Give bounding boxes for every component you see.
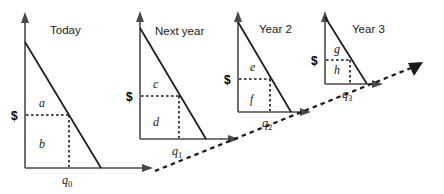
area-label-g: g [334, 42, 340, 56]
price-axis-arrow-icon-today [21, 12, 29, 23]
quantity-label-q1: q1 [172, 144, 182, 160]
area-label-f: f [250, 92, 255, 106]
demand-curve-next-year [140, 28, 206, 139]
price-axis-arrow-icon-year-2 [234, 11, 242, 22]
panel-title-year-3: Year 3 [352, 23, 385, 35]
diagram-canvas: Today $ a b q0 Next year $ c d q1 [0, 0, 444, 194]
quantity-axis-arrow-icon-today [142, 164, 153, 172]
area-label-a: a [39, 96, 45, 110]
area-label-d: d [153, 115, 160, 129]
area-label-b: b [39, 137, 45, 151]
area-label-h: h [334, 63, 340, 77]
price-axis-label-today: $ [11, 109, 18, 123]
demand-curve-diagram: Today $ a b q0 Next year $ c d q1 [0, 0, 444, 194]
panel-title-next-year: Next year [155, 25, 204, 37]
price-axis-label-year-2: $ [224, 73, 231, 87]
area-label-c: c [153, 77, 159, 91]
price-axis-arrow-icon-next-year [136, 11, 144, 22]
price-axis-label-year-3: $ [311, 54, 318, 68]
quantity-label-q3: q3 [342, 87, 352, 103]
area-label-e: e [250, 60, 256, 74]
panel-title-today: Today [50, 24, 81, 36]
panel-year-3: Year 3 $ g h q3 [311, 11, 385, 103]
demand-curve-today [25, 42, 101, 168]
quantity-label-q0: q0 [62, 173, 72, 189]
panel-title-year-2: Year 2 [259, 23, 292, 35]
quantity-axis-arrow-icon-year-2 [300, 108, 311, 116]
price-axis-label-next-year: $ [126, 90, 133, 104]
trend-arrow [155, 62, 423, 171]
demand-curve-year-2 [238, 22, 291, 112]
panel-next-year: Next year $ c d q1 [126, 11, 239, 160]
quantity-label-q2: q2 [262, 116, 272, 132]
